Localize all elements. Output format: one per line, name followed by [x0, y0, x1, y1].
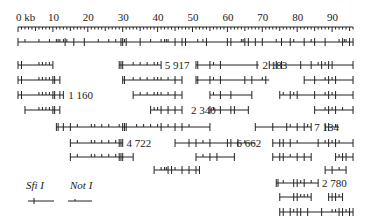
legend-not-label: Not I — [69, 179, 94, 191]
clone-row: 2 340 — [25, 104, 353, 116]
clone-row: 1 160 — [18, 89, 353, 101]
clone-row: 2 780 — [276, 177, 347, 189]
ruler-tick-label: 70 — [257, 11, 269, 23]
ruler-tick-label: 80 — [292, 11, 304, 23]
clone-size-label: 7 134 — [314, 121, 339, 133]
ruler-tick-label: 90 — [327, 11, 339, 23]
clone-row — [18, 38, 353, 46]
ruler-unit-label: 0 kb — [16, 11, 36, 23]
clone-row — [70, 153, 353, 161]
clone-rows: 5 9172 1831 1602 3407 1344 7226 6622 780 — [18, 38, 353, 216]
legend: Sfi I Not I — [26, 179, 94, 204]
clone-row — [280, 193, 343, 201]
ruler-tick-label: 10 — [48, 11, 60, 23]
clone-size-label: 6 662 — [236, 137, 261, 149]
clone-row: 4 7226 662 — [70, 137, 353, 149]
clone-size-label: 2 780 — [322, 177, 347, 189]
ruler-tick-label: 20 — [83, 11, 95, 23]
clone-size-label: 1 160 — [68, 89, 93, 101]
clone-size-label: 2 183 — [263, 59, 288, 71]
kb-ruler: 0 kb102030405060708090 — [16, 11, 353, 32]
ruler-tick-label: 50 — [188, 11, 200, 23]
ruler-tick-label: 40 — [153, 11, 165, 23]
clone-row — [280, 208, 353, 216]
legend-sfi-label: Sfi I — [26, 179, 45, 191]
clone-row: 5 9172 183 — [18, 59, 353, 71]
restriction-map: 0 kb102030405060708090 5 9172 1831 1602 … — [0, 0, 378, 220]
ruler-tick-label: 60 — [222, 11, 234, 23]
clone-row — [18, 76, 353, 84]
clone-row: 7 134 — [56, 121, 339, 133]
clone-size-label: 2 340 — [191, 104, 216, 116]
clone-size-label: 5 917 — [165, 59, 190, 71]
clone-size-label: 4 722 — [126, 137, 151, 149]
clone-row — [154, 166, 346, 174]
ruler-tick-label: 30 — [118, 11, 130, 23]
